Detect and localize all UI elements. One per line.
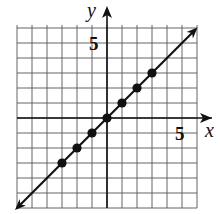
x-tick-label: 5	[175, 123, 185, 144]
data-point	[147, 68, 156, 77]
y-axis-label: y	[85, 0, 96, 22]
y-tick-label: 5	[89, 33, 99, 54]
data-point	[57, 158, 66, 167]
data-point	[132, 83, 141, 92]
data-point	[102, 113, 111, 122]
x-axis-label: x	[204, 119, 214, 141]
data-point	[72, 143, 81, 152]
data-point	[87, 128, 96, 137]
coordinate-graph: y x 5 5	[0, 0, 220, 214]
data-point	[117, 98, 126, 107]
